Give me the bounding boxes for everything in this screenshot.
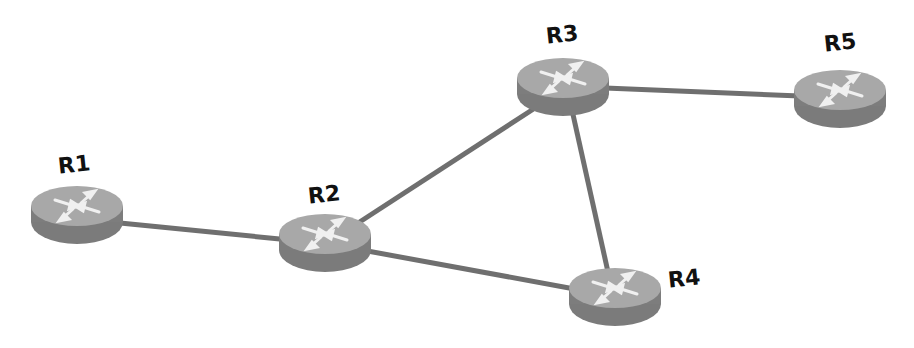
router-r3[interactable] (517, 58, 609, 116)
router-r2[interactable] (279, 214, 371, 272)
links (110, 88, 800, 290)
router-r4[interactable] (569, 268, 661, 326)
router-r5[interactable] (794, 70, 886, 128)
link-r1-r2 (110, 222, 290, 240)
link-r3-r5 (605, 88, 800, 96)
router-r1[interactable] (31, 186, 123, 244)
router-label-r1: R1 (57, 150, 92, 178)
router-icon (31, 186, 123, 244)
network-diagram: R1 R2 R3 R4 R5 (0, 0, 914, 348)
router-label-r2: R2 (307, 180, 342, 208)
link-r2-r4 (362, 250, 580, 290)
router-icon (517, 58, 609, 116)
router-icon (569, 268, 661, 326)
router-icon (279, 214, 371, 272)
router-icon (794, 70, 886, 128)
router-label-r3: R3 (545, 20, 580, 48)
link-r3-r4 (572, 110, 608, 272)
router-label-r4: R4 (667, 264, 702, 292)
link-r2-r3 (355, 108, 535, 225)
router-label-r5: R5 (823, 28, 858, 56)
diagram-canvas (0, 0, 914, 348)
